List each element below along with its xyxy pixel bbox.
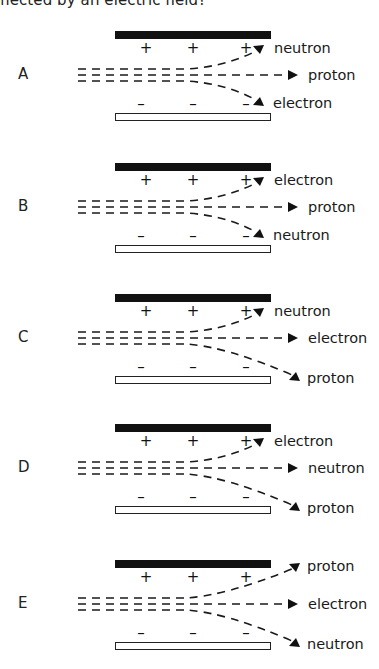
middle-particle-label: electron [308,330,367,346]
lower-beam-path [78,81,256,100]
upper-particle-label: electron [274,172,333,188]
upper-arrowhead-icon [253,177,264,186]
upper-arrowhead-icon [289,563,300,572]
upper-beam-path [78,183,256,201]
lower-particle-label: proton [307,370,354,386]
middle-particle-label: proton [308,67,355,83]
middle-particle-label: electron [308,596,367,612]
lower-arrowhead-icon [289,372,300,381]
lower-particle-label: proton [307,500,354,516]
option-d[interactable]: D+++––– electronneutronproton [0,393,379,523]
middle-arrowhead-icon [288,70,298,80]
lower-beam-path [78,213,256,232]
option-b[interactable]: B+++––– electronprotonneutron [0,132,379,262]
lower-particle-label: electron [273,95,332,111]
upper-particle-label: electron [274,433,333,449]
lower-particle-label: neutron [307,636,364,652]
upper-arrowhead-icon [253,438,264,447]
upper-arrowhead-icon [253,45,264,54]
lower-beam-path [78,344,292,375]
upper-beam-path [78,569,292,598]
middle-arrowhead-icon [288,202,298,212]
upper-beam-path [78,314,256,332]
option-e[interactable]: E+++––– protonelectronneutron [0,529,379,659]
upper-arrowhead-icon [253,308,264,317]
lower-beam-path [78,474,292,505]
middle-arrowhead-icon [288,463,298,473]
lower-beam-path [78,610,292,641]
middle-arrowhead-icon [288,333,298,343]
lower-arrowhead-icon [253,97,264,106]
upper-particle-label: proton [307,558,354,574]
upper-beam-path [78,444,256,462]
lower-arrowhead-icon [253,229,264,238]
upper-particle-label: neutron [274,40,331,56]
middle-particle-label: neutron [308,460,365,476]
middle-particle-label: proton [308,199,355,215]
middle-arrowhead-icon [288,599,298,609]
option-a[interactable]: A+++––– neutronprotonelectron [0,0,379,130]
upper-particle-label: neutron [274,303,331,319]
lower-arrowhead-icon [289,502,300,511]
lower-arrowhead-icon [289,638,300,647]
option-c[interactable]: C+++––– neutronelectronproton [0,263,379,393]
lower-particle-label: neutron [273,227,330,243]
upper-beam-path [78,51,256,69]
